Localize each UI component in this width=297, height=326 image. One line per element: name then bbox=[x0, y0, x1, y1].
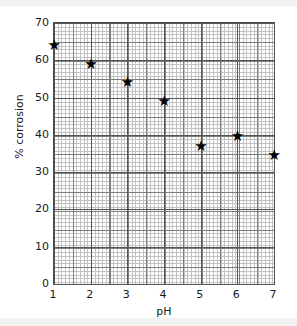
gridline-horizontal bbox=[54, 172, 274, 173]
gridline-vertical bbox=[54, 23, 55, 284]
gridline-vertical bbox=[237, 23, 238, 284]
y-tick-label: 10 bbox=[23, 240, 49, 251]
corrosion-vs-ph-chart: ★★★★★★★ 010203040506070 1234567 pH % cor… bbox=[0, 0, 297, 326]
y-tick-label: 30 bbox=[23, 166, 49, 177]
gridline-horizontal bbox=[54, 23, 274, 24]
y-tick-label: 50 bbox=[23, 91, 49, 102]
gridline-horizontal bbox=[54, 98, 274, 99]
x-tick-label: 6 bbox=[226, 289, 246, 300]
gridline-horizontal bbox=[54, 209, 274, 210]
gridline-vertical bbox=[164, 23, 165, 284]
x-tick-label: 1 bbox=[43, 289, 63, 300]
x-tick-label: 3 bbox=[116, 289, 136, 300]
x-tick-label: 4 bbox=[153, 289, 173, 300]
gridline-horizontal bbox=[54, 247, 274, 248]
x-tick-label: 7 bbox=[263, 289, 283, 300]
x-tick-label: 5 bbox=[190, 289, 210, 300]
x-axis-tick-labels: 1234567 bbox=[53, 289, 275, 305]
y-tick-label: 70 bbox=[23, 17, 49, 28]
gridline-horizontal bbox=[54, 284, 274, 285]
x-axis-title: pH bbox=[53, 305, 275, 318]
y-tick-label: 20 bbox=[23, 203, 49, 214]
y-axis-title: % corrosion bbox=[13, 72, 26, 182]
gridline-vertical bbox=[91, 23, 92, 284]
y-tick-label: 60 bbox=[23, 54, 49, 65]
gridline-horizontal bbox=[54, 60, 274, 61]
gridline-vertical bbox=[127, 23, 128, 284]
y-tick-label: 0 bbox=[23, 278, 49, 289]
plot-area: ★★★★★★★ bbox=[53, 22, 275, 285]
y-tick-label: 40 bbox=[23, 128, 49, 139]
x-tick-label: 2 bbox=[80, 289, 100, 300]
gridline-vertical bbox=[274, 23, 275, 284]
gridline-horizontal bbox=[54, 135, 274, 136]
gridline-vertical bbox=[201, 23, 202, 284]
